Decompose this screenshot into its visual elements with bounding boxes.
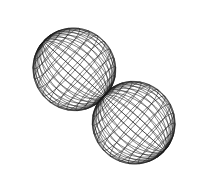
dumbbell-wireframe-surface xyxy=(0,0,205,189)
wireframe-figure xyxy=(0,0,205,189)
wireframe-mesh xyxy=(33,28,175,164)
mesh-meridian xyxy=(44,28,174,150)
mesh-meridian xyxy=(34,42,164,164)
